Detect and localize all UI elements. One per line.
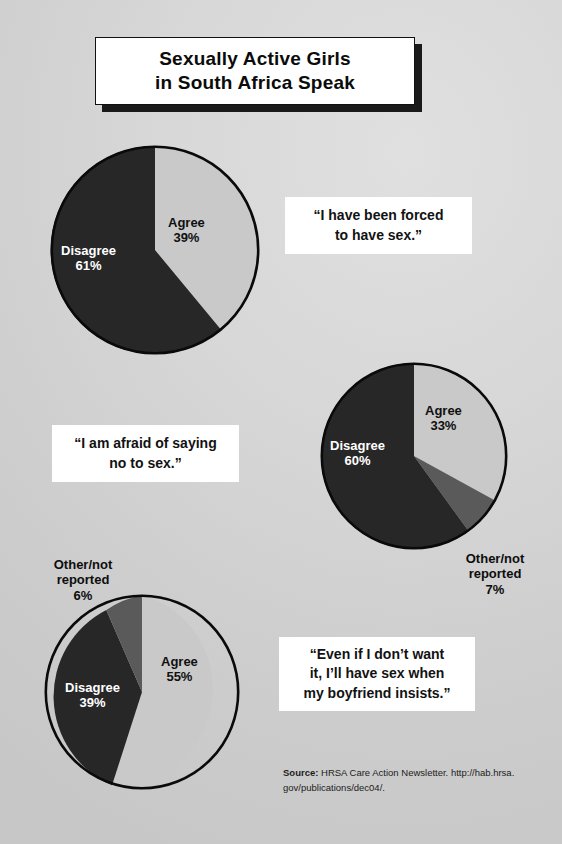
quote-boyfriend-line-1: “Even if I don’t want (310, 645, 445, 664)
quote-box-afraid: “I am afraid of saying no to sex.” (52, 425, 239, 482)
pie-chart-afraid: Agree 33% Disagree 60% (318, 360, 510, 552)
title-line-1: Sexually Active Girls (159, 47, 350, 71)
quote-box-boyfriend: “Even if I don’t want it, I’ll have sex … (279, 637, 475, 711)
quote-afraid-line-1: “I am afraid of saying (74, 434, 216, 453)
infographic-poster: Sexually Active Girls in South Africa Sp… (0, 0, 562, 844)
pie-boyfriend-other-line-2: reported (28, 572, 138, 587)
title-banner: Sexually Active Girls in South Africa Sp… (95, 37, 415, 105)
pie-forced-svg (48, 143, 262, 357)
pie-afraid-other-line-1: Other/not (440, 551, 550, 566)
pie-chart-boyfriend: Agree 55% Disagree 39% (42, 592, 242, 792)
pie-chart-forced: Agree 39% Disagree 61% (48, 143, 262, 357)
pie-afraid-other-value: 7% (440, 582, 550, 597)
quote-forced-line-1: “I have been forced (314, 206, 444, 225)
pie-afraid-label-other: Other/not reported 7% (440, 551, 550, 597)
title-line-2: in South Africa Speak (155, 71, 355, 95)
quote-boyfriend-line-3: my boyfriend insists.” (303, 684, 450, 703)
quote-box-forced: “I have been forced to have sex.” (285, 197, 472, 254)
source-text: HRSA Care Action Newsletter. http://hab.… (283, 767, 514, 793)
quote-forced-line-2: to have sex.” (335, 226, 422, 245)
quote-afraid-line-2: no to sex.” (109, 454, 181, 473)
quote-boyfriend-line-2: it, I’ll have sex when (310, 664, 445, 683)
source-label: Source: (283, 767, 318, 778)
pie-boyfriend-other-line-1: Other/not (28, 557, 138, 572)
pie-boyfriend-svg (42, 592, 242, 792)
pie-afraid-svg (318, 360, 510, 552)
pie-afraid-other-line-2: reported (440, 566, 550, 581)
source-citation: Source: HRSA Care Action Newsletter. htt… (283, 766, 533, 795)
